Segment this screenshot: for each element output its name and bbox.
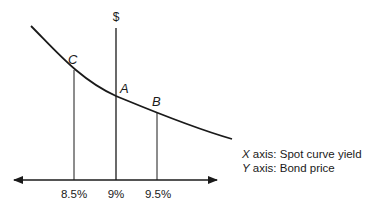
legend-x-text: axis: Spot curve yield bbox=[250, 148, 362, 160]
point-label-b: B bbox=[152, 94, 161, 109]
x-tick-8-5: 8.5% bbox=[61, 188, 87, 200]
legend-y-axis: Y axis: Bond price bbox=[242, 162, 335, 174]
price-yield-curve bbox=[31, 26, 232, 139]
x-tick-9: 9% bbox=[108, 188, 125, 200]
legend-x-axis: X axis: Spot curve yield bbox=[241, 148, 362, 160]
price-yield-diagram: $ C A B 8.5% 9% 9.5% X axis: Spot curve … bbox=[0, 0, 376, 208]
legend-y-text: axis: Bond price bbox=[250, 162, 335, 174]
point-label-a: A bbox=[119, 81, 129, 96]
point-label-c: C bbox=[68, 52, 78, 67]
x-tick-9-5: 9.5% bbox=[145, 188, 171, 200]
y-axis-symbol: $ bbox=[113, 10, 120, 24]
